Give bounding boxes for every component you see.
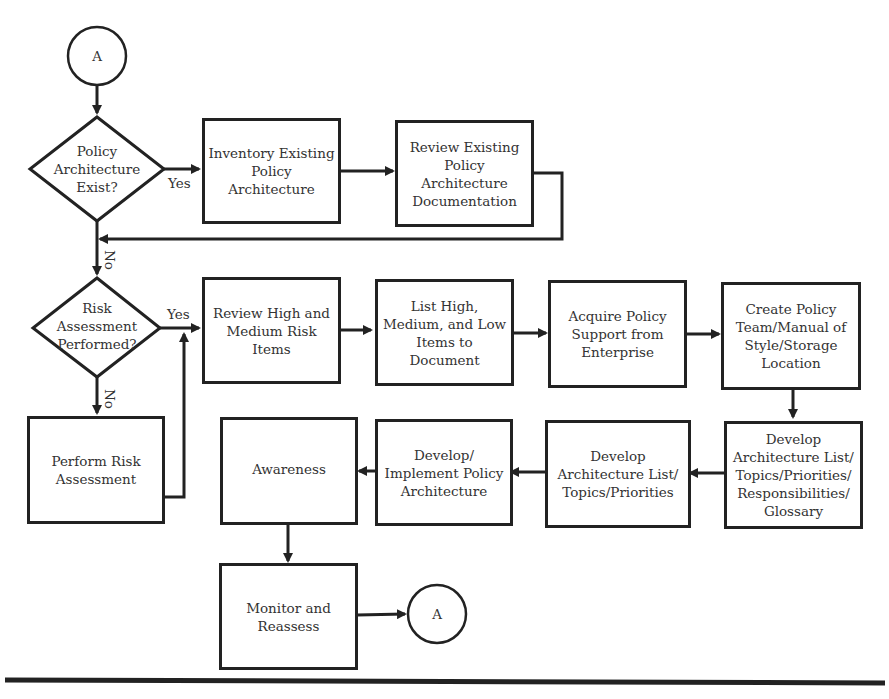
process-develop-implement-policy-architecture: Develop/ Implement Policy Architecture bbox=[375, 419, 513, 526]
decision-1-yes-label: Yes bbox=[168, 175, 191, 191]
process-review-high-medium-risk-items: Review High and Medium Risk Items bbox=[202, 277, 341, 384]
process-monitor-and-reassess: Monitor and Reassess bbox=[219, 563, 358, 670]
decision-policy-architecture-exist: Policy Architecture Exist? bbox=[40, 135, 154, 203]
connector-label: A bbox=[92, 47, 102, 65]
decision-1-no-label: No bbox=[102, 250, 118, 270]
decision-2-no-label: No bbox=[102, 389, 118, 409]
connector-label: A bbox=[432, 605, 442, 623]
process-list-items-to-document: List High, Medium, and Low Items to Docu… bbox=[375, 279, 514, 386]
decision-2-yes-label: Yes bbox=[167, 306, 190, 322]
connector-a-bottom: A bbox=[408, 585, 466, 643]
process-perform-risk-assessment: Perform Risk Assessment bbox=[27, 416, 165, 524]
process-acquire-policy-support: Acquire Policy Support from Enterprise bbox=[548, 280, 687, 388]
process-develop-architecture-list-full: Develop Architecture List/ Topics/Priori… bbox=[724, 421, 863, 529]
connector-a-top: A bbox=[68, 27, 126, 85]
process-review-existing-policy-documentation: Review Existing Policy Architecture Docu… bbox=[395, 120, 534, 227]
process-inventory-existing-policy-architecture: Inventory Existing Policy Architecture bbox=[202, 118, 341, 224]
process-create-policy-team: Create Policy Team/Manual of Style/Stora… bbox=[721, 282, 861, 390]
process-awareness: Awareness bbox=[220, 417, 358, 525]
decision-risk-assessment-performed: Risk Assessment Performed? bbox=[40, 292, 154, 360]
process-develop-architecture-list: Develop Architecture List/ Topics/Priori… bbox=[545, 420, 691, 528]
